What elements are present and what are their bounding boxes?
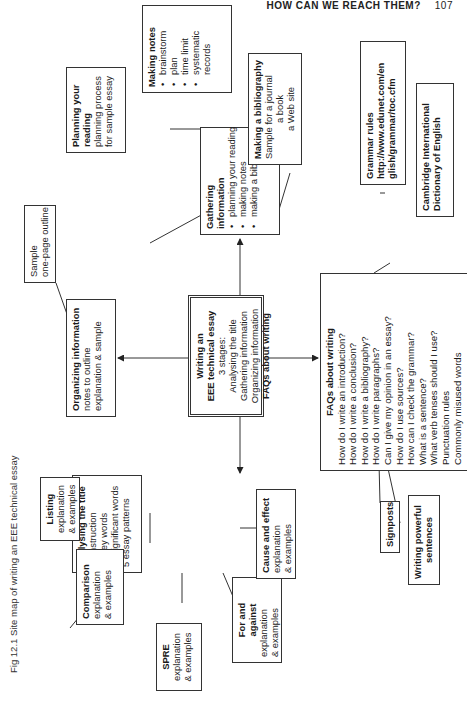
spre-line: & examples: [182, 629, 193, 685]
organizing-title: Organizing information: [70, 305, 81, 411]
central-stage-3: Organizing information: [249, 303, 260, 409]
faq-item: How do I write an introduction?: [336, 279, 348, 465]
sample-outline-line: Sample: [28, 211, 39, 277]
box-making-bibliography: Making a bibliography Sample for a journ…: [248, 53, 302, 165]
box-for-and-against: For and against explanation & examples: [232, 577, 282, 663]
central-subtitle: 3 stages:: [216, 303, 227, 409]
for-against-line: explanation: [258, 583, 269, 657]
analysing-item: key words: [98, 481, 109, 555]
cause-effect-line: explanation: [271, 495, 282, 573]
faq-item: What verb tenses should I use?: [428, 279, 440, 465]
gathering-item: planning your reading: [226, 133, 237, 217]
spre-title: SPRE: [160, 629, 171, 685]
central-title-line2: EEE technical essay: [205, 303, 216, 409]
for-against-title-2: against: [247, 583, 258, 657]
faq-item: What is a sentence?: [417, 279, 429, 465]
organizing-line: explanation & sample: [92, 305, 103, 411]
box-grammar-rules: Grammar rules http://www.edunet.com/en g…: [360, 41, 406, 185]
spre-line: explanation: [171, 629, 182, 685]
making-notes-title: Making notes: [146, 11, 157, 87]
box-making-notes: Making notes brainstorm plan time limit …: [142, 5, 232, 93]
grammar-rules-url-1: http://www.edunet.com/en: [375, 47, 386, 179]
faq-item: Can I give my opinion in an essay?: [382, 279, 394, 465]
listing-line: & examples: [66, 483, 77, 535]
box-faqs-about-writing: FAQs about writing How do I write an int…: [320, 273, 467, 471]
faq-item: How do I write a bibliography?: [359, 279, 371, 465]
bibliography-line: a book: [274, 59, 285, 159]
planning-reading-line: for sample essay: [103, 73, 114, 147]
powerful-line-1: Writing powerful: [412, 501, 423, 579]
making-notes-item: brainstorm: [157, 11, 168, 75]
central-stage-2: Gathering information: [238, 303, 249, 409]
site-map-diagram: Fig 12.1 Site map of writing an EEE tech…: [0, 0, 467, 713]
gathering-item: making notes: [237, 133, 248, 217]
box-cambridge-dictionary: Cambridge International Dictionary of En…: [416, 83, 454, 217]
faq-item: Commonly misused words: [452, 279, 464, 465]
box-sample-outline: Sample one-page outline: [24, 205, 56, 283]
grammar-rules-title: Grammar rules: [364, 47, 375, 179]
central-box-writing-essay: Writing an EEE technical essay 3 stages:…: [188, 295, 264, 417]
signposts-title: Signposts: [384, 507, 395, 547]
bibliography-line: Sample for a journal: [263, 59, 274, 159]
making-notes-item-cont: records: [201, 11, 212, 87]
sample-outline-line: one-page outline: [39, 211, 50, 277]
analysing-item: instruction: [87, 481, 98, 555]
comparison-line: explanation: [91, 555, 102, 619]
planning-reading-line: planning process: [92, 73, 103, 147]
faq-item: Punctuation rules: [440, 279, 452, 465]
for-against-line: & examples: [269, 583, 280, 657]
central-faq-link: FAQs about writing: [260, 303, 271, 409]
figure-label: Fig 12.1: [8, 639, 19, 673]
comparison-title: Comparison: [80, 555, 91, 619]
central-stage-1: Analysing the title: [227, 303, 238, 409]
box-planning-reading: Planning your reading planning process f…: [66, 67, 126, 153]
box-spre: SPRE explanation & examples: [156, 623, 202, 691]
listing-title: Listing: [44, 483, 55, 535]
organizing-line: notes to outline: [81, 305, 92, 411]
cambridge-line-2: Dictionary of English: [431, 89, 442, 211]
cause-effect-title: Cause and effect: [260, 495, 271, 573]
box-signposts: Signposts: [380, 501, 400, 553]
powerful-line-2: sentences: [423, 501, 434, 579]
making-notes-item: systematic: [190, 11, 201, 75]
box-listing: Listing explanation & examples: [40, 477, 80, 541]
box-comparison: Comparison explanation & examples: [76, 549, 124, 625]
box-cause-and-effect: Cause and effect explanation & examples: [256, 489, 296, 579]
listing-line: explanation: [55, 483, 66, 535]
planning-reading-title-2: reading: [81, 73, 92, 147]
faq-item: How do I write paragraphs?: [370, 279, 382, 465]
central-title-line1: Writing an: [194, 303, 205, 409]
planning-reading-title-1: Planning your: [70, 73, 81, 147]
making-notes-list: brainstorm plan time limit systematic: [157, 11, 201, 87]
faq-item: How do I use sources?: [394, 279, 406, 465]
analysing-item: significant words: [109, 481, 120, 555]
box-organizing-information: Organizing information notes to outline …: [66, 299, 116, 417]
faqs-title: FAQs about writing: [324, 279, 336, 465]
figure-caption-text: Site map of writing an EEE technical ess…: [8, 455, 19, 636]
comparison-line: & examples: [102, 555, 113, 619]
figure-caption: Fig 12.1 Site map of writing an EEE tech…: [8, 455, 20, 673]
cambridge-line-1: Cambridge International: [420, 89, 431, 211]
making-notes-item: plan: [168, 11, 179, 75]
bibliography-line: a Web site: [285, 59, 296, 159]
box-writing-powerful-sentences: Writing powerful sentences: [408, 495, 440, 585]
grammar-rules-url-2: glish/grammar/toc.cfm: [386, 47, 397, 179]
cause-effect-line: & examples: [282, 495, 293, 573]
faq-item: How can I check the grammar?: [405, 279, 417, 465]
for-against-title-1: For and: [236, 583, 247, 657]
gathering-title: Gathering information: [204, 133, 226, 229]
making-notes-item: time limit: [179, 11, 190, 75]
faq-item: How do I write a conclusion?: [347, 279, 359, 465]
bibliography-title: Making a bibliography: [252, 59, 263, 159]
